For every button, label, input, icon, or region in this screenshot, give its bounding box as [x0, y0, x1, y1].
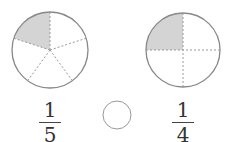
numerator: 1 — [35, 100, 65, 120]
denominator: 5 — [35, 125, 65, 142]
fraction-one-fourth: 1 4 — [168, 100, 198, 142]
circle-quarters — [146, 13, 220, 87]
comparison-blank-circle[interactable] — [103, 101, 131, 129]
shaded-fifth — [14, 12, 50, 50]
fraction-one-fifth: 1 5 — [35, 100, 65, 142]
numerator: 1 — [168, 100, 198, 120]
denominator: 4 — [168, 125, 198, 142]
circle-fifths — [12, 12, 88, 88]
